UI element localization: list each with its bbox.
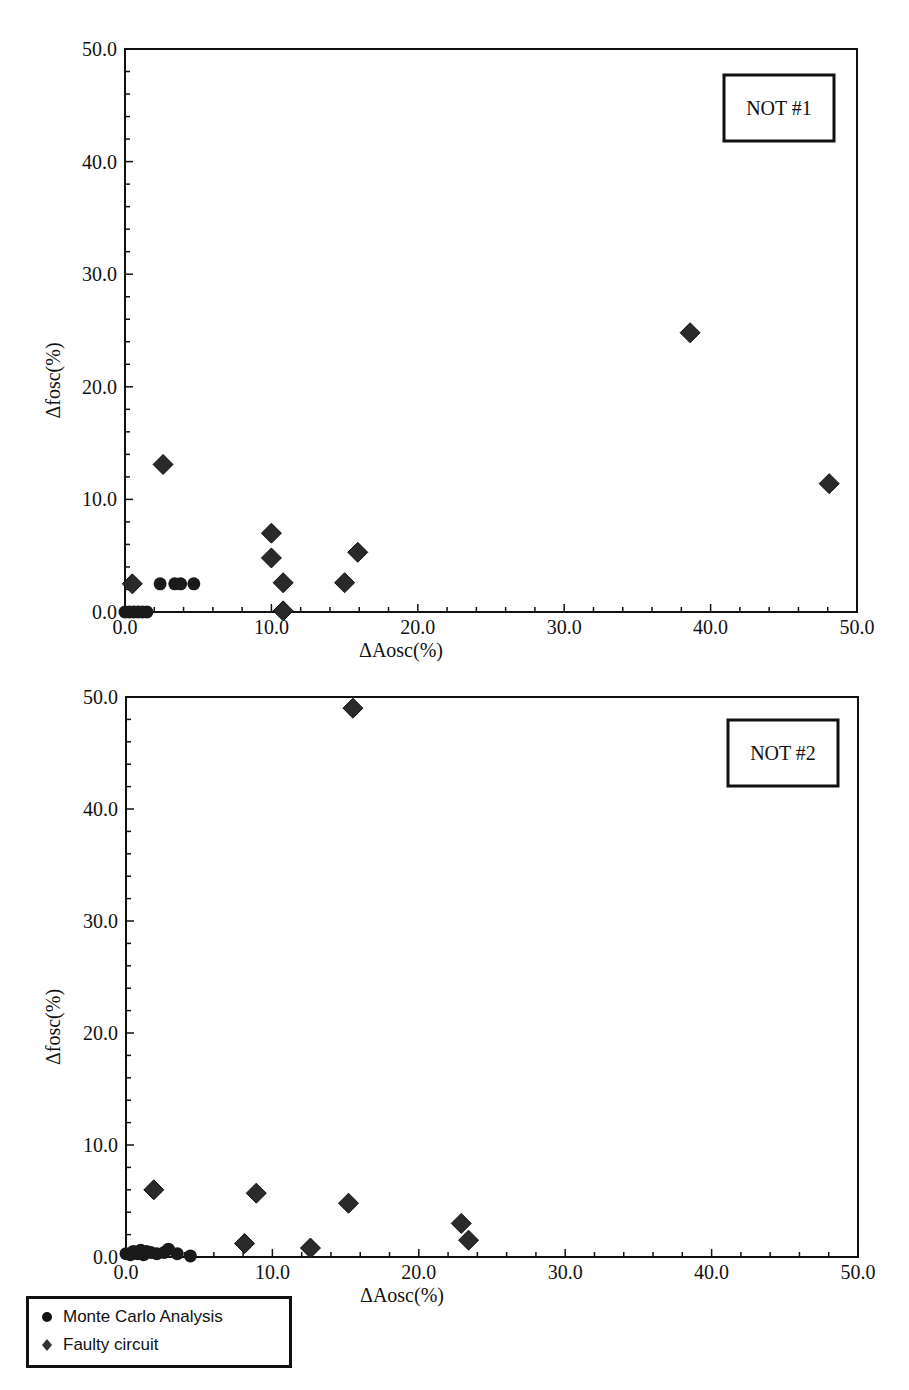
y-tick-label: 50.0 [83,686,118,708]
y-axis-label: Δfosc(%) [42,342,65,418]
x-tick-label: 20.0 [400,616,435,638]
diamond-marker-icon [680,323,700,343]
y-axis-label: Δfosc(%) [42,989,65,1065]
circle-marker-icon [154,577,167,590]
circle-marker-icon [140,606,153,619]
diamond-marker-icon [235,1234,255,1254]
diamond-marker-icon [273,573,293,593]
y-tick-label: 20.0 [83,1022,118,1044]
series-faulty-circuit [122,323,839,621]
x-tick-label: 20.0 [401,1261,436,1283]
x-tick-label: 30.0 [548,1261,583,1283]
legend-item-faulty-circuit: Faulty circuit [39,1335,158,1355]
diamond-marker-icon [819,474,839,494]
circle-marker-icon [174,577,187,590]
diamond-marker-icon [246,1183,266,1203]
x-tick-label: 50.0 [841,1261,876,1283]
diamond-marker-icon [144,1180,164,1200]
x-tick-label: 40.0 [694,1261,729,1283]
plot-area-not2: 0.010.020.030.040.050.00.010.020.030.040… [0,650,909,1330]
y-tick-label: 50.0 [82,38,117,60]
diamond-marker-icon [300,1238,320,1258]
legend-label: Faulty circuit [63,1335,158,1355]
plot-area-not1: 0.010.020.030.040.050.00.010.020.030.040… [0,0,909,680]
diamond-marker-icon [261,523,281,543]
scatter-chart-not1: 0.010.020.030.040.050.00.010.020.030.040… [0,0,909,680]
circle-marker-icon [184,1249,197,1262]
diamond-marker-icon [335,573,355,593]
legend-label: Monte Carlo Analysis [63,1307,223,1327]
x-axis-label: ΔAosc(%) [360,1284,444,1307]
y-tick-label: 30.0 [83,910,118,932]
circle-marker-icon [39,1311,55,1323]
diamond-marker-icon [343,698,363,718]
diamond-marker-icon [339,1193,359,1213]
x-tick-label: 50.0 [840,616,875,638]
legend-item-monte-carlo: Monte Carlo Analysis [39,1307,223,1327]
x-tick-label: 10.0 [255,1261,290,1283]
diamond-marker-icon [39,1338,55,1352]
scatter-chart-not2: 0.010.020.030.040.050.00.010.020.030.040… [0,650,909,1330]
y-tick-label: 0.0 [92,601,117,623]
y-tick-label: 10.0 [83,1134,118,1156]
y-tick-label: 0.0 [93,1246,118,1268]
series-monte-carlo [120,1243,197,1263]
diamond-marker-icon [261,548,281,568]
y-tick-label: 40.0 [83,798,118,820]
x-tick-label: 40.0 [693,616,728,638]
y-tick-label: 20.0 [82,376,117,398]
diamond-marker-icon [153,454,173,474]
series-faulty-circuit [144,698,479,1258]
chart-title: NOT #1 [746,97,812,119]
chart-title: NOT #2 [750,742,816,764]
circle-marker-icon [187,577,200,590]
x-tick-label: 30.0 [547,616,582,638]
circle-marker-icon [171,1247,184,1260]
y-tick-label: 40.0 [82,151,117,173]
y-tick-label: 30.0 [82,263,117,285]
diamond-marker-icon [348,542,368,562]
legend: Monte Carlo Analysis Faulty circuit [26,1296,292,1368]
y-tick-label: 10.0 [82,488,117,510]
